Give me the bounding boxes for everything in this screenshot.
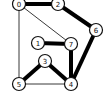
graph-diagram: 02617354 [0, 0, 104, 102]
node-label: 5 [17, 81, 21, 89]
node-3: 3 [39, 55, 52, 68]
node-label: 7 [69, 41, 73, 49]
node-7: 7 [65, 38, 78, 51]
node-0: 0 [13, 0, 26, 11]
edges-layer [19, 4, 96, 84]
node-label: 4 [69, 81, 74, 89]
node-5: 5 [13, 78, 26, 91]
edge-0-7 [19, 4, 71, 44]
node-label: 6 [94, 27, 99, 35]
node-4: 4 [65, 78, 78, 91]
node-2: 2 [52, 0, 65, 11]
node-label: 1 [36, 40, 40, 48]
node-label: 3 [43, 58, 47, 66]
node-label: 2 [56, 1, 60, 9]
node-6: 6 [90, 24, 103, 37]
node-1: 1 [32, 37, 45, 50]
node-label: 0 [17, 1, 21, 9]
